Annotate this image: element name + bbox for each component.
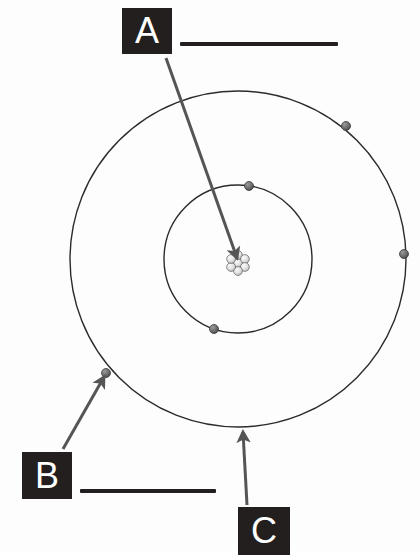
electron-inner-top [245,182,254,191]
callout-label-a: A [122,8,172,54]
callout-arrow-b [63,377,104,449]
nucleus-icon [227,251,250,276]
answer-line-b[interactable] [80,489,216,493]
callout-label-b: B [22,452,72,499]
electron-inner-bottom [210,325,219,334]
callout-arrow-c [243,432,247,505]
electron-outer-upper-right [342,122,351,131]
callout-arrow-a [166,58,237,258]
electron-outer-right [400,250,409,259]
callout-label-c: C [238,507,290,555]
electron-outer-lower-left [102,369,111,378]
answer-line-a[interactable] [180,42,338,46]
